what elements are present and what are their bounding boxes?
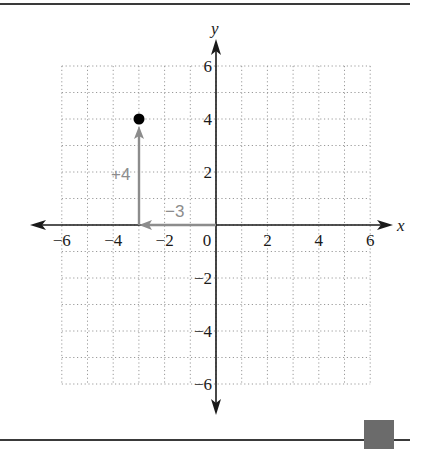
x-tick-label: 0 <box>203 231 212 250</box>
y-tick-label: 2 <box>204 163 213 182</box>
bottom-rule <box>0 439 410 441</box>
y-tick-label: 6 <box>204 57 213 76</box>
corner-box <box>364 420 394 449</box>
y-tick-label: 4 <box>204 110 213 129</box>
plotted-point <box>134 114 145 125</box>
x-axis-label: x <box>396 216 405 235</box>
vertical-move-arrow <box>134 126 144 225</box>
y-tick-label: −4 <box>194 322 213 341</box>
vertical-move-label: +4 <box>111 165 130 184</box>
horizontal-move-label: −3 <box>165 202 184 221</box>
x-tick-label: −2 <box>156 231 174 250</box>
x-tick-label: −4 <box>104 231 123 250</box>
y-axis-label: y <box>209 19 219 38</box>
y-tick-label: −2 <box>194 269 212 288</box>
axes <box>30 39 393 415</box>
x-tick-label: 4 <box>315 231 324 250</box>
x-tick-label: −6 <box>53 231 71 250</box>
horizontal-move-arrow <box>139 220 216 230</box>
x-tick-label: 2 <box>263 231 272 250</box>
x-tick-label: 6 <box>366 231 375 250</box>
x-tick-labels: −6−4−20246 <box>53 231 375 250</box>
y-tick-label: −6 <box>194 375 212 394</box>
coordinate-plane: x y −6−4−20246 642−2−4−6 +4 −3 <box>0 0 431 449</box>
